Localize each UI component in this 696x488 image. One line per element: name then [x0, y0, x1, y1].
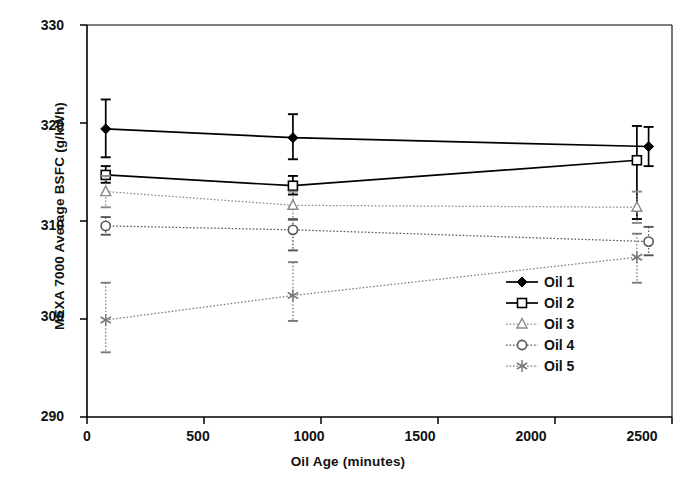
data-point-marker	[101, 221, 110, 230]
legend-label-oil-2: Oil 2	[544, 295, 574, 311]
series-line	[106, 192, 637, 208]
data-point-marker	[644, 142, 654, 152]
legend-key-oil-5	[505, 359, 539, 373]
data-point-marker	[517, 360, 527, 372]
chart-figure: MEXA 7000 Average BSFC (g/kWh) Oil Age (…	[0, 0, 696, 488]
x-tick-label-1500: 1500	[390, 428, 450, 444]
data-point-marker	[517, 277, 527, 287]
chart-legend: Oil 1 Oil 2 Oil 3 Oil 4 Oil 5	[505, 271, 610, 376]
legend-item-oil-3[interactable]: Oil 3	[505, 313, 610, 334]
data-point-marker	[101, 186, 111, 196]
data-point-marker	[288, 200, 298, 210]
data-point-marker	[632, 251, 642, 263]
x-tick-label-500: 500	[168, 428, 228, 444]
legend-label-oil-5: Oil 5	[544, 358, 574, 374]
data-point-marker	[518, 298, 527, 307]
series-line	[106, 129, 649, 147]
data-point-marker	[288, 133, 298, 143]
legend-key-oil-4	[505, 338, 539, 352]
data-point-marker	[101, 170, 110, 179]
x-tick-label-2500: 2500	[612, 428, 672, 444]
data-point-marker	[101, 124, 111, 134]
y-tick-label-300: 300	[18, 308, 64, 324]
y-tick-label-290: 290	[18, 408, 64, 424]
series-oil-1	[101, 99, 654, 166]
legend-key-oil-2	[505, 296, 539, 310]
data-point-marker	[632, 202, 642, 212]
legend-item-oil-1[interactable]: Oil 1	[505, 271, 610, 292]
data-point-marker	[288, 225, 297, 234]
data-point-marker	[288, 289, 298, 301]
series-oil-3	[101, 176, 642, 223]
legend-label-oil-3: Oil 3	[544, 316, 574, 332]
plot-area	[0, 0, 696, 488]
data-point-marker	[644, 237, 653, 246]
legend-label-oil-1: Oil 1	[544, 274, 574, 290]
x-tick-label-0: 0	[57, 428, 117, 444]
data-point-marker	[517, 340, 526, 349]
data-point-marker	[288, 181, 297, 190]
y-tick-label-310: 310	[18, 217, 64, 233]
x-tick-label-1000: 1000	[279, 428, 339, 444]
legend-key-oil-3	[505, 317, 539, 331]
data-point-marker	[632, 156, 641, 165]
y-tick-label-320: 320	[18, 117, 64, 133]
legend-item-oil-2[interactable]: Oil 2	[505, 292, 610, 313]
legend-item-oil-5[interactable]: Oil 5	[505, 355, 610, 376]
y-tick-label-330: 330	[18, 17, 64, 33]
series-oil-4	[101, 217, 654, 255]
series-line	[106, 226, 649, 242]
data-point-marker	[517, 318, 527, 328]
series-line	[106, 160, 637, 185]
legend-key-oil-1	[505, 275, 539, 289]
legend-label-oil-4: Oil 4	[544, 337, 574, 353]
x-axis-title: Oil Age (minutes)	[291, 454, 406, 469]
legend-item-oil-4[interactable]: Oil 4	[505, 334, 610, 355]
x-tick-label-2000: 2000	[501, 428, 561, 444]
x-axis-title-wrap: Oil Age (minutes)	[0, 452, 696, 470]
